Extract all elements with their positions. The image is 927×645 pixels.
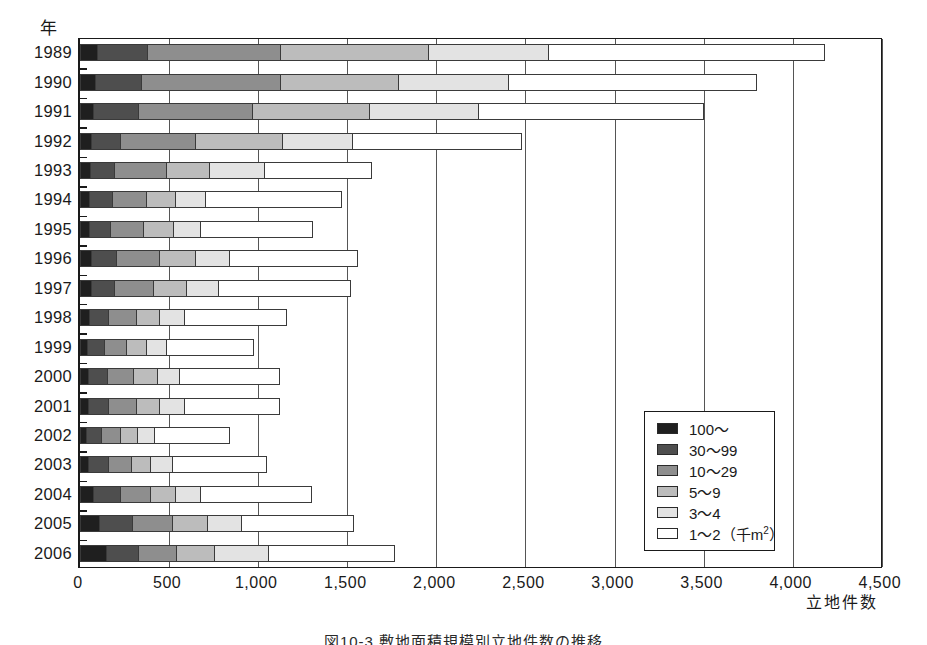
bar-segment	[121, 486, 151, 503]
legend-item: 10〜29	[645, 460, 774, 481]
gridline	[793, 39, 794, 567]
bar-segment	[215, 545, 268, 562]
legend: 100〜30〜9910〜295〜93〜41〜2（千m2）	[644, 411, 775, 551]
legend-swatch-icon	[657, 507, 678, 518]
bar-segment	[138, 427, 155, 444]
bar-segment	[80, 398, 89, 415]
bar-segment	[91, 162, 115, 179]
bar-segment	[80, 191, 90, 208]
year-tick-label: 1993	[10, 162, 72, 179]
bar-segment	[115, 280, 154, 297]
year-tick-label: 1998	[10, 309, 72, 326]
bar-segment	[80, 280, 92, 297]
bar-segment	[80, 221, 90, 238]
legend-label: 30〜99	[689, 439, 737, 460]
bar-segment	[80, 515, 100, 532]
x-axis-tick-label: 2,500	[502, 574, 545, 592]
bar-segment	[109, 456, 132, 473]
x-axis-tick-label: 0	[73, 574, 82, 592]
year-tick-label: 2002	[10, 427, 72, 444]
bar-segment	[108, 368, 135, 385]
legend-swatch-icon	[657, 465, 678, 476]
bar-segment	[160, 309, 185, 326]
bar-segment	[87, 427, 102, 444]
y-axis-minor-tick	[80, 451, 87, 452]
legend-swatch-icon	[657, 444, 678, 455]
legend-swatch-icon	[657, 528, 678, 539]
legend-label: 3〜4	[689, 502, 721, 523]
bar-segment	[208, 515, 242, 532]
year-tick-label: 2004	[10, 486, 72, 503]
bar-segment	[187, 280, 219, 297]
bar-segment	[196, 250, 230, 267]
bar-segment	[269, 545, 396, 562]
bar-segment	[80, 427, 87, 444]
legend-label: 5〜9	[689, 481, 721, 502]
bar-segment	[283, 133, 352, 150]
y-axis-minor-tick	[80, 481, 87, 482]
bar-segment	[265, 162, 372, 179]
bar-segment	[185, 309, 287, 326]
bar-segment	[133, 515, 172, 532]
bar-segment	[80, 456, 89, 473]
bar-segment	[185, 398, 279, 415]
x-axis-tick-label: 4,000	[769, 574, 812, 592]
y-axis-minor-tick	[80, 245, 87, 246]
y-axis-minor-tick	[80, 127, 87, 128]
y-axis-minor-tick	[80, 157, 87, 158]
bar-segment	[80, 545, 107, 562]
bar-segment	[160, 250, 196, 267]
x-axis-tick-labels: 05001,0001,5002,0002,5003,0003,5004,0004…	[0, 574, 927, 598]
year-tick-label: 1992	[10, 133, 72, 150]
year-tick-label: 2001	[10, 398, 72, 415]
x-axis-tick-label: 3,000	[591, 574, 634, 592]
bar-segment	[94, 486, 121, 503]
bar-segment	[132, 456, 152, 473]
year-tick-label: 1989	[10, 44, 72, 61]
year-tick-label: 2003	[10, 456, 72, 473]
bar-segment	[137, 309, 160, 326]
legend-swatch-icon	[657, 423, 678, 434]
y-axis-minor-tick	[80, 304, 87, 305]
legend-label: 10〜29	[689, 460, 737, 481]
bar-segment	[94, 103, 139, 120]
y-axis-minor-tick	[80, 540, 87, 541]
bar-segment	[134, 368, 157, 385]
year-tick-label: 1991	[10, 103, 72, 120]
bar-segment	[180, 368, 280, 385]
bar-segment	[158, 368, 180, 385]
bar-segment	[127, 339, 147, 356]
bar-segment	[177, 545, 215, 562]
bar-segment	[167, 162, 210, 179]
x-axis-tick-label: 4,500	[859, 574, 902, 592]
bar-segment	[148, 44, 282, 61]
y-axis-title: 年	[40, 14, 58, 39]
bar-segment	[242, 515, 353, 532]
legend-item: 100〜	[645, 418, 774, 439]
bar-segment	[80, 368, 89, 385]
bar-segment	[92, 280, 115, 297]
bar-segment	[117, 250, 160, 267]
bar-segment	[176, 191, 205, 208]
year-tick-label: 1995	[10, 221, 72, 238]
x-axis-tick-label: 2,000	[413, 574, 456, 592]
bar-segment	[80, 74, 96, 91]
bar-segment	[154, 280, 187, 297]
year-tick-label: 1996	[10, 250, 72, 267]
legend-label: 100〜	[689, 418, 729, 439]
y-axis-minor-tick	[80, 510, 87, 511]
bar-segment	[196, 133, 283, 150]
y-axis-minor-tick	[80, 363, 87, 364]
figure-caption: 図10-3 敷地面積規模別立地件数の推移	[0, 630, 927, 645]
bar-segment	[102, 427, 121, 444]
bar-segment	[80, 486, 94, 503]
x-axis-tick-label: 3,500	[680, 574, 723, 592]
year-tick-label: 2006	[10, 545, 72, 562]
year-tick-label: 1994	[10, 191, 72, 208]
bar-segment	[210, 162, 265, 179]
year-tick-labels: 1989199019911992199319941995199619971998…	[8, 38, 72, 568]
bar-segment	[89, 368, 108, 385]
bar-segment	[206, 191, 342, 208]
x-axis-tick-label: 1,000	[235, 574, 278, 592]
bar-segment	[139, 545, 177, 562]
